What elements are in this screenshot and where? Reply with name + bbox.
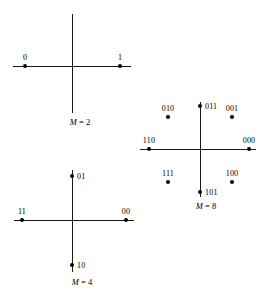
signal-point-label-001: 001 [226, 104, 239, 113]
signal-point-000 [247, 147, 251, 151]
signal-point-label-010: 010 [162, 104, 175, 113]
caption-value: = 8 [203, 201, 216, 211]
horizontal-axis [140, 149, 256, 150]
constellation-figure: 01M = 201001011M = 400000101101011011110… [0, 0, 260, 300]
signal-point-111 [166, 180, 170, 184]
signal-point-001 [230, 115, 234, 119]
signal-point-label-111: 111 [162, 169, 174, 178]
signal-point-label-110: 110 [143, 136, 155, 145]
signal-point-101 [198, 190, 202, 194]
constellation-m8: 000001011010110111101100M = 8 [0, 0, 260, 300]
signal-point-label-000: 000 [243, 136, 256, 145]
signal-point-100 [230, 180, 234, 184]
caption-m8: M = 8 [196, 201, 216, 211]
signal-point-011 [198, 104, 202, 108]
signal-point-010 [166, 115, 170, 119]
signal-point-label-101: 101 [205, 188, 218, 197]
vertical-axis [200, 102, 201, 197]
signal-point-label-011: 011 [205, 102, 217, 111]
signal-point-label-100: 100 [226, 169, 239, 178]
signal-point-110 [147, 147, 151, 151]
